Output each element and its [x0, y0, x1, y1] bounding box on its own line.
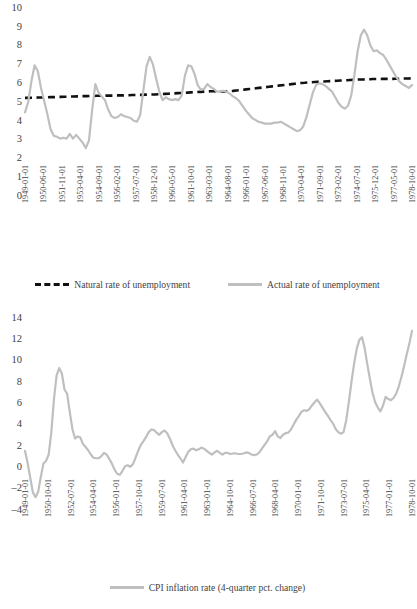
x-tick-label: 1966-01-01 — [243, 165, 251, 203]
y-tick-label: 4 — [17, 419, 22, 430]
y-tick-label: 0 — [17, 462, 22, 473]
x-tick-label: 1970-01-01 — [295, 479, 303, 517]
y-tick-label: 2 — [17, 153, 22, 164]
legend-swatch — [110, 586, 144, 589]
x-tick-label: 1971-09-01 — [317, 165, 325, 203]
y-tick-label: 8 — [17, 40, 22, 51]
x-tick-label: 1964-10-01 — [227, 479, 235, 517]
y-tick-label: 8 — [17, 377, 22, 388]
x-tick-label: 1953-04-01 — [77, 165, 85, 203]
x-tick-label: 1960-05-01 — [169, 165, 177, 203]
x-tick-label: 1968-04-01 — [272, 479, 280, 517]
x-tick-label: 1978-10-01 — [409, 479, 417, 517]
y-tick-label: 7 — [17, 59, 22, 70]
legend-item: Actual rate of unemployment — [228, 279, 380, 290]
legend-label: CPI inflation rate (4-quarter pct. chang… — [149, 582, 306, 593]
series-line — [25, 331, 412, 497]
x-tick-label: 1950-06-01 — [40, 165, 48, 203]
x-tick-label: 1956-01-01 — [113, 479, 121, 517]
x-tick-label: 1966-07-01 — [250, 479, 258, 517]
x-tick-label: 1973-07-01 — [341, 479, 349, 517]
chart1-legend: Natural rate of unemploymentActual rate … — [0, 279, 415, 290]
legend-item: CPI inflation rate (4-quarter pct. chang… — [110, 582, 306, 593]
legend-item: Natural rate of unemployment — [35, 279, 190, 290]
x-tick-label: 1956-02-01 — [114, 165, 122, 203]
cpi-inflation-chart: –4–202468101214 1949-01-011950-10-011952… — [0, 310, 415, 609]
x-tick-label: 1957-10-01 — [136, 479, 144, 517]
x-tick-label: 1957-07-01 — [133, 165, 141, 203]
legend-swatch — [228, 283, 262, 286]
y-tick-label: 6 — [17, 398, 22, 409]
unemployment-chart: 012345678910 1949-01-011950-06-011951-11… — [0, 0, 415, 310]
x-tick-label: 1950-10-01 — [45, 479, 53, 517]
x-tick-label: 1970-04-01 — [298, 165, 306, 203]
y-tick-label: 6 — [17, 78, 22, 89]
y-tick-label: 4 — [17, 116, 22, 127]
x-tick-label: 1963-03-01 — [206, 165, 214, 203]
y-tick-label: 3 — [17, 134, 22, 145]
x-tick-label: 1977-05-01 — [391, 165, 399, 203]
x-tick-label: 1958-12-01 — [151, 165, 159, 203]
x-tick-label: 1961-04-01 — [181, 479, 189, 517]
x-tick-label: 1973-02-01 — [335, 165, 343, 203]
y-tick-label: 10 — [12, 3, 23, 14]
x-tick-label: 1975-04-01 — [363, 479, 371, 517]
x-tick-label: 1949-01-01 — [22, 165, 30, 203]
x-tick-label: 1967-06-01 — [262, 165, 270, 203]
x-tick-label: 1968-11-01 — [280, 165, 288, 203]
x-tick-label: 1975-12-01 — [372, 165, 380, 203]
x-tick-label: 1954-04-01 — [90, 479, 98, 517]
x-tick-label: 1963-01-01 — [204, 479, 212, 517]
x-tick-label: 1977-01-01 — [386, 479, 394, 517]
x-tick-label: 1971-10-01 — [318, 479, 326, 517]
x-tick-label: 1951-11-01 — [59, 165, 67, 203]
legend-swatch — [35, 283, 69, 286]
y-tick-label: 9 — [17, 22, 22, 33]
legend-label: Actual rate of unemployment — [267, 279, 380, 290]
series-line — [25, 30, 412, 148]
y-tick-label: 2 — [17, 441, 22, 452]
legend-label: Natural rate of unemployment — [74, 279, 190, 290]
x-tick-label: 1954-09-01 — [96, 165, 104, 203]
x-tick-label: 1961-10-01 — [188, 165, 196, 203]
x-tick-label: 1952-07-01 — [68, 479, 76, 517]
y-tick-label: 10 — [12, 355, 23, 366]
chart2-legend: CPI inflation rate (4-quarter pct. chang… — [0, 582, 415, 593]
x-tick-label: 1974-07-01 — [354, 165, 362, 203]
x-tick-label: 1978-10-01 — [409, 165, 417, 203]
x-tick-label: 1959-07-01 — [159, 479, 167, 517]
y-tick-label: 12 — [12, 334, 23, 345]
y-tick-label: 5 — [17, 97, 22, 108]
x-tick-label: 1949-01-01 — [22, 479, 30, 517]
y-tick-label: 14 — [12, 313, 23, 324]
x-tick-label: 1964-08-01 — [225, 165, 233, 203]
